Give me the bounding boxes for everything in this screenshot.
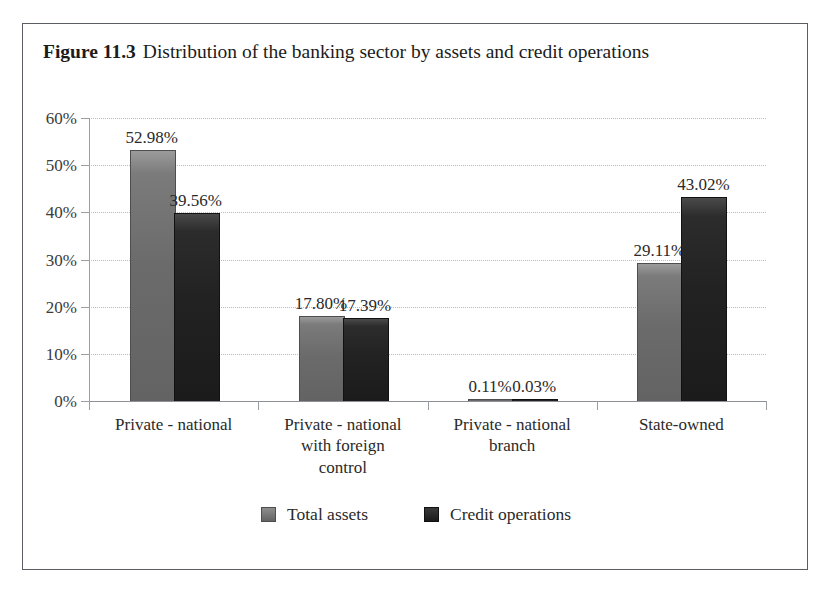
y-axis-label: 50% bbox=[17, 157, 77, 174]
bar-value-label: 17.39% bbox=[305, 297, 425, 314]
bar-credit bbox=[174, 213, 220, 401]
category-label-line: Private - national bbox=[255, 414, 431, 435]
category-label-line: State-owned bbox=[593, 414, 769, 435]
y-axis-label: 40% bbox=[17, 204, 77, 221]
y-axis-label: 30% bbox=[17, 251, 77, 268]
chart-plot-area: 0%10%20%30%40%50%60% 52.98%17.80%0.11%29… bbox=[89, 118, 766, 401]
y-axis-label: 60% bbox=[17, 110, 77, 127]
legend-item: Total assets bbox=[261, 506, 368, 524]
bar-assets bbox=[299, 316, 345, 401]
y-axis-label: 20% bbox=[17, 298, 77, 315]
y-axis-label: 10% bbox=[17, 345, 77, 362]
figure-number: Figure 11.3 bbox=[43, 41, 136, 62]
y-axis-tick bbox=[81, 401, 89, 402]
category-label-line: control bbox=[255, 457, 431, 478]
legend-item: Credit operations bbox=[424, 506, 571, 524]
category-label-line: branch bbox=[424, 435, 600, 456]
y-axis-tick bbox=[81, 118, 89, 119]
x-axis-tick bbox=[89, 401, 90, 410]
x-axis-tick bbox=[766, 401, 767, 410]
gridline bbox=[89, 118, 766, 119]
chart-legend: Total assetsCredit operations bbox=[23, 506, 809, 524]
category-label-line: Private - national bbox=[424, 414, 600, 435]
bar-value-label: 52.98% bbox=[92, 129, 212, 146]
legend-label: Credit operations bbox=[450, 506, 571, 524]
legend-swatch-icon bbox=[424, 507, 439, 522]
bar-assets bbox=[130, 150, 176, 401]
x-axis-tick bbox=[597, 401, 598, 410]
bar-assets bbox=[637, 263, 683, 401]
y-axis-tick bbox=[81, 212, 89, 213]
figure-title: Distribution of the banking sector by as… bbox=[143, 41, 649, 62]
x-axis-category-label: State-owned bbox=[593, 414, 769, 435]
x-axis-tick bbox=[428, 401, 429, 410]
y-axis-label: 0% bbox=[17, 393, 77, 410]
bar-credit bbox=[681, 197, 727, 401]
x-axis-category-label: Private - nationalbranch bbox=[424, 414, 600, 457]
bar-credit bbox=[343, 318, 389, 401]
figure-frame: Figure 11.3Distribution of the banking s… bbox=[22, 23, 808, 570]
y-axis-tick bbox=[81, 260, 89, 261]
figure-caption: Figure 11.3Distribution of the banking s… bbox=[43, 41, 788, 71]
gridline bbox=[89, 165, 766, 166]
bar-value-label: 29.11% bbox=[599, 242, 719, 259]
category-label-line: with foreign bbox=[255, 435, 431, 456]
x-axis-category-label: Private - nationalwith foreigncontrol bbox=[255, 414, 431, 478]
bar-value-label: 0.03% bbox=[474, 378, 594, 395]
y-axis-tick bbox=[81, 307, 89, 308]
y-axis-tick bbox=[81, 165, 89, 166]
legend-swatch-icon bbox=[261, 507, 276, 522]
x-axis-category-label: Private - national bbox=[86, 414, 262, 435]
y-axis-line bbox=[89, 118, 90, 401]
y-axis-tick bbox=[81, 354, 89, 355]
x-axis-tick bbox=[258, 401, 259, 410]
bar-value-label: 43.02% bbox=[643, 176, 763, 193]
bar-value-label: 39.56% bbox=[136, 192, 256, 209]
legend-label: Total assets bbox=[287, 506, 368, 524]
category-label-line: Private - national bbox=[86, 414, 262, 435]
